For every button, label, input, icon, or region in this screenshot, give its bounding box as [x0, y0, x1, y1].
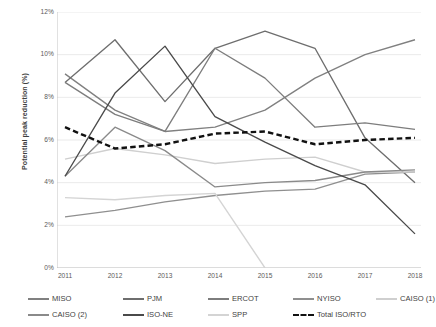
legend-swatch-icon [123, 314, 144, 316]
x-tick-label: 2011 [44, 273, 86, 280]
legend-label: ISO-NE [147, 311, 173, 319]
x-tick-label: 2013 [144, 273, 186, 280]
legend-swatch-icon [123, 298, 144, 300]
legend-label: CAISO (2) [52, 311, 87, 319]
x-axis-tick-labels: 20112012201320142015201620172018 [57, 273, 421, 285]
legend-item-nyiso[interactable]: NYISO [293, 291, 341, 306]
y-tick-label: 6% [18, 137, 54, 144]
x-tick-label: 2016 [294, 273, 336, 280]
legend-item-caiso-2[interactable]: CAISO (2) [28, 307, 87, 322]
legend-swatch-icon [293, 314, 314, 316]
x-tick-label: 2014 [194, 273, 236, 280]
legend-item-iso-ne[interactable]: ISO-NE [123, 307, 173, 322]
legend-item-pjm[interactable]: PJM [123, 291, 162, 306]
legend-label: ERCOT [232, 295, 259, 303]
legend-swatch-icon [208, 298, 229, 300]
legend-label: SPP [232, 311, 247, 319]
plot-svg [57, 12, 421, 268]
series-line-pjm [65, 31, 415, 182]
series-lines [65, 31, 415, 268]
series-line-miso [65, 40, 415, 132]
series-line-caiso-1 [65, 149, 415, 172]
y-tick-label: 4% [18, 179, 54, 186]
x-tick-label: 2012 [94, 273, 136, 280]
x-tick-label: 2015 [244, 273, 286, 280]
chart-legend: MISOPJMERCOTNYISOCAISO (1) CAISO (2)ISO-… [28, 291, 420, 325]
y-tick-label: 8% [18, 94, 54, 101]
legend-label: MISO [52, 295, 71, 303]
legend-swatch-icon [28, 314, 49, 316]
x-tick-label: 2017 [344, 273, 386, 280]
legend-label: NYISO [317, 295, 341, 303]
x-tick-label: 2018 [394, 273, 436, 280]
y-tick-label: 2% [18, 222, 54, 229]
legend-row-2: CAISO (2)ISO-NESPPTotal ISO/RTO [28, 307, 420, 322]
legend-swatch-icon [28, 298, 49, 300]
legend-item-ercot[interactable]: ERCOT [208, 291, 259, 306]
series-line-spp [65, 193, 265, 268]
legend-row-1: MISOPJMERCOTNYISOCAISO (1) [28, 291, 420, 306]
y-tick-label: 10% [18, 51, 54, 58]
legend-label: PJM [147, 295, 162, 303]
series-line-nyiso [65, 172, 415, 217]
legend-item-spp[interactable]: SPP [208, 307, 247, 322]
legend-swatch-icon [376, 298, 397, 300]
legend-label: CAISO (1) [400, 295, 435, 303]
legend-swatch-icon [208, 314, 229, 316]
series-line-total-iso-rto [65, 127, 415, 148]
legend-swatch-icon [293, 298, 314, 300]
legend-item-caiso-1[interactable]: CAISO (1) [376, 291, 435, 306]
y-tick-label: 0% [18, 265, 54, 272]
plot-area [57, 12, 421, 268]
legend-item-total-iso-rto[interactable]: Total ISO/RTO [293, 307, 366, 322]
legend-item-miso[interactable]: MISO [28, 291, 71, 306]
legend-label: Total ISO/RTO [317, 311, 366, 319]
series-line-caiso-2 [65, 127, 415, 187]
y-tick-label: 12% [18, 9, 54, 16]
